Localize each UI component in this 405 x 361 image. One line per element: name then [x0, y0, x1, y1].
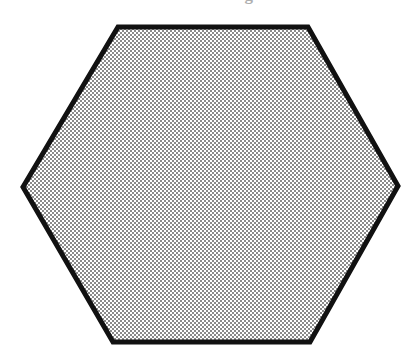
- hexagon-svg: [0, 0, 405, 361]
- hexagon-figure: [0, 0, 405, 361]
- hexagon-outline: [23, 27, 398, 342]
- figure-page: the bottom edge.: [0, 0, 405, 361]
